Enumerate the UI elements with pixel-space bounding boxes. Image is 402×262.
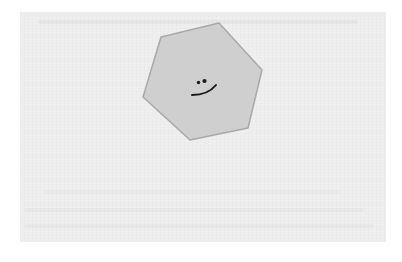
hexagon-figure bbox=[0, 0, 402, 262]
right-eye bbox=[202, 79, 206, 83]
image-canvas bbox=[0, 0, 402, 262]
left-eye bbox=[197, 81, 200, 84]
